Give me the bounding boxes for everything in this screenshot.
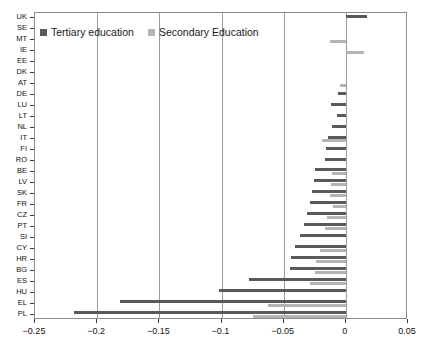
x-gridline	[346, 13, 347, 318]
x-axis-tick-label: −0.15	[128, 326, 188, 336]
y-axis-tick-label: LU	[0, 101, 27, 109]
y-axis-tick-label: LT	[0, 112, 27, 120]
y-axis-tick-mark	[30, 171, 34, 172]
bar	[219, 289, 346, 292]
y-axis-tick-mark	[30, 149, 34, 150]
bar	[333, 205, 345, 208]
bar	[316, 260, 346, 263]
chart-legend: Tertiary educationSecondary Education	[40, 26, 259, 38]
bar	[340, 84, 346, 87]
x-axis-tick-label: −0.05	[253, 326, 313, 336]
bar	[253, 315, 346, 318]
bar	[330, 194, 346, 197]
legend-entry: Tertiary education	[40, 26, 134, 38]
y-axis-tick-mark	[30, 50, 34, 51]
y-axis-tick-label: AT	[0, 79, 27, 87]
y-axis-tick-mark	[30, 116, 34, 117]
x-axis-tick-label: 0.05	[377, 326, 431, 336]
y-axis-tick-label: FR	[0, 200, 27, 208]
y-axis-tick-mark	[30, 160, 34, 161]
bar	[330, 40, 346, 43]
y-axis-tick-mark	[30, 83, 34, 84]
x-axis-tick-mark	[283, 319, 284, 323]
bar	[310, 282, 346, 285]
y-axis-tick-mark	[30, 259, 34, 260]
y-axis-tick-mark	[30, 182, 34, 183]
y-axis-tick-mark	[30, 61, 34, 62]
bar	[337, 114, 346, 117]
y-axis-tick-label: DK	[0, 68, 27, 76]
y-axis-tick-mark	[30, 248, 34, 249]
x-axis-tick-mark	[158, 319, 159, 323]
y-axis-tick-mark	[30, 226, 34, 227]
x-axis-tick-mark	[221, 319, 222, 323]
legend-label: Tertiary education	[51, 26, 134, 38]
bar	[325, 227, 346, 230]
y-axis-tick-mark	[30, 237, 34, 238]
y-axis-tick-label: NL	[0, 123, 27, 131]
y-axis-tick-label: HR	[0, 255, 27, 263]
y-axis-tick-mark	[30, 105, 34, 106]
bar	[332, 172, 346, 175]
bar	[327, 216, 346, 219]
y-axis-tick-label: FI	[0, 145, 27, 153]
y-axis-tick-label: DE	[0, 90, 27, 98]
y-axis-tick-label: CZ	[0, 211, 27, 219]
y-axis-tick-label: PT	[0, 222, 27, 230]
y-axis-tick-mark	[30, 193, 34, 194]
legend-swatch-icon	[40, 29, 47, 36]
y-axis-tick-mark	[30, 94, 34, 95]
bar	[268, 304, 346, 307]
y-axis-tick-label: UK	[0, 13, 27, 21]
y-axis-tick-mark	[30, 204, 34, 205]
y-axis-tick-label: ES	[0, 277, 27, 285]
x-axis-tick-label: 0	[315, 326, 375, 336]
x-axis-tick-mark	[96, 319, 97, 323]
y-axis-tick-mark	[30, 138, 34, 139]
y-axis-tick-mark	[30, 314, 34, 315]
y-axis-tick-mark	[30, 39, 34, 40]
y-axis-tick-label: HU	[0, 288, 27, 296]
bar	[315, 271, 346, 274]
y-axis-tick-mark	[30, 17, 34, 18]
plot-area	[34, 12, 407, 319]
legend-entry: Secondary Education	[148, 26, 259, 38]
x-gridline	[222, 13, 223, 318]
y-axis-tick-label: LV	[0, 178, 27, 186]
bar	[338, 92, 345, 95]
y-axis-tick-label: SK	[0, 189, 27, 197]
y-axis-tick-mark	[30, 72, 34, 73]
x-axis-tick-mark	[407, 319, 408, 323]
y-axis-tick-mark	[30, 281, 34, 282]
y-axis-tick-label: EL	[0, 299, 27, 307]
y-axis-tick-label: BG	[0, 266, 27, 274]
bar	[346, 15, 367, 18]
bar	[325, 158, 346, 161]
y-axis-tick-label: IT	[0, 134, 27, 142]
bar	[320, 249, 346, 252]
y-axis-tick-label: MT	[0, 35, 27, 43]
y-axis-tick-label: SE	[0, 24, 27, 32]
bar	[300, 234, 346, 237]
bar	[331, 103, 346, 106]
y-axis-tick-mark	[30, 303, 34, 304]
y-axis-tick-label: RO	[0, 156, 27, 164]
y-axis-tick-label: BE	[0, 167, 27, 175]
y-axis-tick-label: CY	[0, 244, 27, 252]
y-axis-tick-mark	[30, 292, 34, 293]
y-axis-tick-label: PL	[0, 310, 27, 318]
y-axis-tick-mark	[30, 215, 34, 216]
y-axis-tick-label: IE	[0, 46, 27, 54]
x-axis-tick-mark	[345, 319, 346, 323]
x-axis-tick-label: −0.25	[4, 326, 64, 336]
y-axis-tick-label: EE	[0, 57, 27, 65]
y-axis-tick-mark	[30, 270, 34, 271]
y-axis-tick-mark	[30, 28, 34, 29]
bar	[346, 51, 365, 54]
bar	[332, 125, 346, 128]
bar	[322, 139, 346, 142]
bar	[331, 183, 346, 186]
x-axis-tick-mark	[34, 319, 35, 323]
x-gridline	[97, 13, 98, 318]
horizontal-bar-chart: Tertiary educationSecondary Education UK…	[0, 0, 431, 353]
